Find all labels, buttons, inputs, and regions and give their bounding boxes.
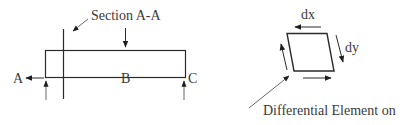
dx-label: dx <box>301 7 315 22</box>
section-label: Section A-A <box>91 8 161 23</box>
beam-diagram: Section A-A A B C <box>13 8 197 100</box>
shear-arrow-right <box>336 35 343 62</box>
section-pointer-arrow <box>73 19 88 31</box>
differential-element <box>287 34 334 72</box>
shear-arrow-left <box>281 44 287 70</box>
point-c-label: C <box>188 71 197 86</box>
dy-label: dy <box>345 40 359 55</box>
point-b-label: B <box>121 71 130 86</box>
element-caption: Differential Element on <box>263 103 396 118</box>
point-a-label: A <box>13 71 24 86</box>
beam <box>46 51 186 78</box>
differential-element-diagram: dx dy Differential Element on <box>249 7 396 118</box>
diagram-canvas: Section A-A A B C dx dy Differential Ele… <box>0 0 410 125</box>
